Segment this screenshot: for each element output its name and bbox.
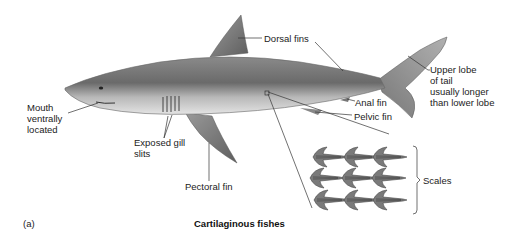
panel-label: (a) bbox=[23, 218, 35, 229]
eye bbox=[99, 87, 103, 90]
leader-scales-left bbox=[268, 94, 312, 208]
label-pelvic-fin: Pelvic fin bbox=[354, 111, 392, 122]
label-dorsal-fins: Dorsal fins bbox=[264, 33, 309, 44]
label-scales: Scales bbox=[423, 175, 452, 186]
pectoral-fin-shape bbox=[185, 112, 237, 163]
label-mouth: Mouth ventrally located bbox=[27, 102, 62, 135]
scales-bracket bbox=[413, 146, 420, 214]
shark-body bbox=[65, 57, 385, 114]
shark-diagram bbox=[0, 0, 524, 249]
label-pectoral-fin: Pectoral fin bbox=[185, 181, 233, 192]
label-gill-slits: Exposed gill slits bbox=[134, 137, 185, 159]
leader-gill-a bbox=[164, 115, 172, 138]
leader-mouth bbox=[68, 103, 98, 113]
figure-caption: Cartilaginous fishes bbox=[194, 218, 285, 229]
pelvic-fin-shape bbox=[300, 108, 322, 115]
leader-gill-b bbox=[164, 116, 168, 138]
scales-illustration bbox=[310, 147, 407, 210]
label-anal-fin: Anal fin bbox=[355, 97, 387, 108]
first-dorsal-fin bbox=[210, 15, 248, 57]
label-upper-lobe: Upper lobe of tail usually longer than l… bbox=[430, 64, 494, 108]
